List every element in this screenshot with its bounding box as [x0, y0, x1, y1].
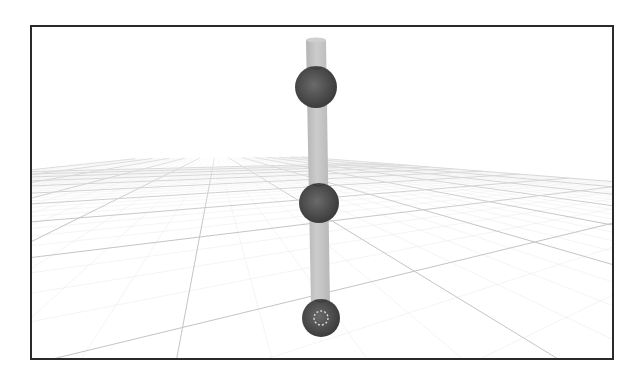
sphere-middle-joint[interactable] [299, 183, 339, 223]
sphere-body[interactable] [302, 299, 340, 337]
3d-viewport[interactable]: 3D viewport [30, 25, 614, 360]
sphere-body[interactable] [295, 66, 337, 108]
sphere-body[interactable] [299, 183, 339, 223]
scene-canvas[interactable] [32, 27, 612, 358]
page: 3D viewport [0, 0, 644, 380]
sphere-bottom-joint[interactable] [302, 299, 340, 337]
sphere-top-joint[interactable] [295, 66, 337, 108]
rod-cap [306, 38, 326, 43]
